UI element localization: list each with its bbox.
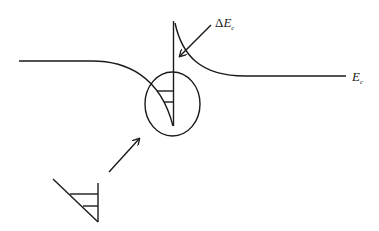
right-band-spike (175, 23, 346, 76)
inset-well-slope (53, 179, 98, 222)
delta-ec-label: ΔEc (215, 15, 235, 32)
left-band-edge (19, 61, 173, 126)
inset-arrow (109, 139, 139, 172)
delta-ec-arrow (180, 25, 211, 56)
highlight-circle (145, 72, 200, 136)
ec-label: Ec (351, 69, 364, 86)
band-diagram-canvas: ΔEc Ec (0, 0, 379, 231)
